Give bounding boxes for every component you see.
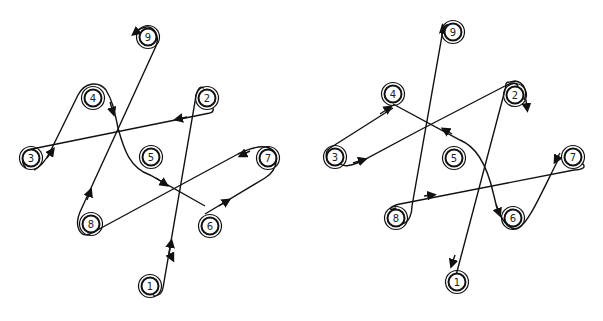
arrow-5-6 bbox=[496, 205, 499, 213]
node-label: 3 bbox=[28, 153, 34, 164]
node-3: 3 bbox=[20, 147, 43, 170]
node-8: 8 bbox=[385, 207, 408, 230]
node-label: 6 bbox=[207, 221, 213, 232]
node-label: 6 bbox=[510, 213, 516, 224]
arrow-2-3 bbox=[178, 117, 187, 119]
node-label: 2 bbox=[204, 93, 210, 104]
arrow-up-1 bbox=[169, 243, 171, 254]
node-5: 5 bbox=[140, 146, 163, 169]
node-1: 1 bbox=[446, 271, 469, 294]
node-label: 8 bbox=[393, 213, 399, 224]
node-8: 8 bbox=[80, 213, 103, 236]
path-6-to-7 bbox=[90, 147, 276, 234]
node-label: 4 bbox=[390, 89, 396, 100]
right-nodes: 123456789 bbox=[324, 21, 585, 294]
node-label: 5 bbox=[148, 152, 154, 163]
path-8-to-9 bbox=[400, 25, 450, 224]
path-4-to-6 bbox=[393, 104, 558, 229]
node-1: 1 bbox=[139, 275, 162, 298]
node-2: 2 bbox=[196, 87, 219, 110]
left-nodes: 123456789 bbox=[20, 26, 280, 298]
diagram-canvas: 123456789 123456789 bbox=[0, 0, 603, 321]
arrow-to-1 bbox=[452, 255, 455, 264]
node-label: 9 bbox=[450, 27, 456, 38]
node-4: 4 bbox=[382, 83, 405, 106]
node-5: 5 bbox=[443, 147, 466, 170]
node-label: 5 bbox=[451, 153, 457, 164]
right-knot-diagram: 123456789 bbox=[324, 21, 585, 294]
left-knot-diagram: 123456789 bbox=[20, 26, 280, 298]
node-label: 1 bbox=[454, 277, 460, 288]
node-7: 7 bbox=[562, 146, 585, 169]
node-7: 7 bbox=[257, 147, 280, 170]
arrow-6-7 bbox=[219, 201, 227, 206]
node-9: 9 bbox=[137, 26, 160, 49]
node-6: 6 bbox=[502, 207, 525, 230]
node-9: 9 bbox=[442, 21, 465, 44]
node-label: 7 bbox=[265, 153, 271, 164]
node-label: 8 bbox=[88, 219, 94, 230]
arrow-5-6 bbox=[156, 178, 165, 184]
node-label: 1 bbox=[147, 281, 153, 292]
node-2: 2 bbox=[504, 84, 527, 107]
node-label: 9 bbox=[145, 32, 151, 43]
path-7-to-8 bbox=[390, 163, 584, 209]
node-label: 3 bbox=[332, 152, 338, 163]
node-6: 6 bbox=[199, 215, 222, 238]
node-label: 4 bbox=[90, 93, 96, 104]
node-4: 4 bbox=[82, 87, 105, 110]
arrow-7-8 bbox=[424, 195, 432, 196]
arrow-2-down bbox=[526, 100, 527, 108]
node-label: 7 bbox=[570, 152, 576, 163]
arrow-6-7 bbox=[556, 153, 560, 160]
node-3: 3 bbox=[324, 146, 347, 169]
node-label: 2 bbox=[512, 90, 518, 101]
path-4-to-6 bbox=[118, 128, 205, 206]
